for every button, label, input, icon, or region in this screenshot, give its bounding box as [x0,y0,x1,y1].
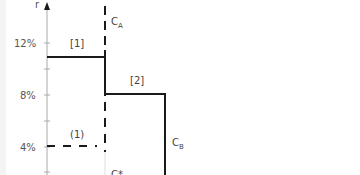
label-cstar: C* [111,169,123,175]
tick-label-4: 4% [20,142,36,153]
y-axis-label: r [35,0,40,10]
tick-label-12: 12% [14,38,36,49]
chart: r 12% 8% 4% [1] [2] (1) CA CB C* [0,0,360,175]
label-cb: CB [172,137,184,151]
tick-label-8: 8% [20,90,36,101]
label-seg1-dashed: (1) [70,129,84,140]
label-seg1: [1] [70,38,84,49]
y-axis-arrow-icon [44,2,50,10]
label-ca: CA [111,16,123,30]
label-seg2: [2] [130,75,144,86]
